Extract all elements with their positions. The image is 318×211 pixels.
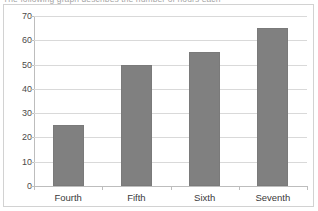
x-axis-tick-label: Seventh [239, 191, 307, 204]
bar-fourth [53, 125, 84, 186]
x-axis-tick-label: Fifth [102, 191, 170, 204]
y-axis-tick-label: 60 [6, 36, 32, 45]
y-axis-tick-label: 70 [6, 12, 32, 21]
y-axis-tick-label: 50 [6, 61, 32, 70]
plot-area [34, 16, 307, 186]
x-axis-tick-mark [239, 186, 240, 190]
y-axis-tick-label: 20 [6, 133, 32, 142]
x-axis-tick-labels: FourthFifthSixthSeventh [34, 191, 307, 205]
bar-seventh [257, 28, 288, 186]
x-axis-tick-mark [34, 186, 35, 190]
bar-sixth [189, 52, 220, 186]
y-axis-tick-label: 40 [6, 85, 32, 94]
y-axis-tick-label: 0 [6, 182, 32, 191]
bar-fifth [121, 65, 152, 186]
x-axis-tick-label: Sixth [171, 191, 239, 204]
x-axis-tick-label: Fourth [34, 191, 102, 204]
y-axis-tick-label: 10 [6, 158, 32, 167]
y-axis-tick-labels: 010203040506070 [4, 5, 32, 208]
x-axis-tick-mark [307, 186, 308, 190]
y-axis-tick-label: 30 [6, 109, 32, 118]
gridline [34, 16, 307, 17]
x-axis-tick-mark [171, 186, 172, 190]
x-axis-tick-mark [102, 186, 103, 190]
chart-frame: 010203040506070 FourthFifthSixthSeventh [3, 4, 314, 207]
